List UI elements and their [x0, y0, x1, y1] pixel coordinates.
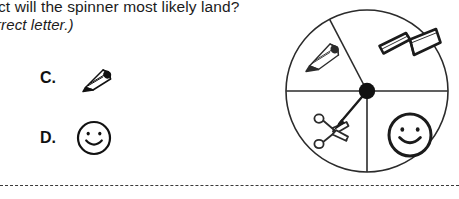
smiley-face-icon	[74, 118, 114, 158]
answer-option-c[interactable]: C.	[40, 63, 116, 93]
spinner-hub	[359, 83, 375, 99]
spinner-section-smiley	[389, 114, 431, 156]
pencil-icon	[74, 63, 116, 93]
answer-option-d[interactable]: D.	[40, 118, 114, 158]
answer-option-d-letter: D.	[40, 129, 74, 147]
four-section-spinner[interactable]	[283, 6, 455, 178]
smiley-face-icon	[389, 114, 431, 156]
question-text-line-1: ct will the spinner most likely land?	[0, 0, 239, 16]
dashed-separator	[0, 185, 459, 186]
answer-option-c-letter: C.	[40, 69, 74, 87]
question-instruction-line: rrect letter.)	[0, 16, 74, 34]
worksheet-page: ct will the spinner most likely land? rr…	[0, 0, 459, 199]
